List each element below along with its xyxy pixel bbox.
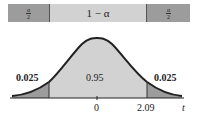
axis-label-t: t [182, 102, 185, 113]
right-tail-prob: 0.025 [154, 72, 177, 83]
left-tail-prob: 0.025 [16, 72, 39, 83]
tick-critical: 2.09 [137, 102, 155, 113]
center-prob: 0.95 [86, 72, 104, 83]
tick-zero: 0 [94, 102, 99, 113]
